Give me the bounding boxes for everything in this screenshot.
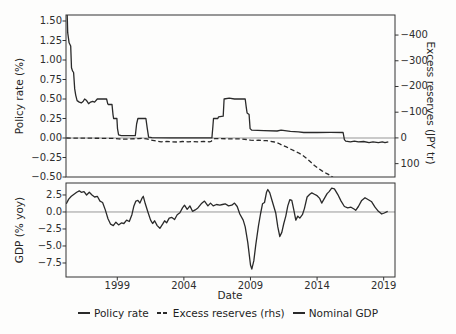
legend-item-nominal-gdp: Nominal GDP: [293, 307, 378, 319]
excess-reserves-line: [66, 138, 333, 178]
x-axis-label: Date: [217, 290, 242, 301]
legend-item-policy-rate: Policy rate: [78, 307, 149, 319]
legend: Policy rate Excess reserves (rhs) Nomina…: [0, 307, 456, 319]
legend-item-excess-reserves: Excess reserves (rhs): [157, 307, 285, 319]
policy-rate-line: [66, 0, 388, 143]
gdp-axis-label: GDP (% yoy): [14, 197, 25, 263]
solid-line-icon: [293, 312, 305, 314]
legend-label-excess-reserves: Excess reserves (rhs): [173, 307, 285, 319]
dashed-line-icon: [157, 312, 169, 314]
policy-rate-axis-label: Policy rate (%): [14, 58, 25, 134]
plot-canvas: [0, 0, 456, 334]
excess-reserves-axis-label: Excess reserves (JPY tr): [426, 41, 437, 164]
policy-panel-frame: [66, 15, 395, 177]
solid-line-icon: [78, 312, 90, 314]
legend-label-policy-rate: Policy rate: [94, 307, 149, 319]
chart-figure: 1.501.251.000.750.500.250.00−0.25−0.50−4…: [0, 0, 456, 334]
gdp-panel-frame: [66, 183, 395, 277]
legend-label-nominal-gdp: Nominal GDP: [309, 307, 378, 319]
nominal-gdp-line: [66, 188, 387, 269]
